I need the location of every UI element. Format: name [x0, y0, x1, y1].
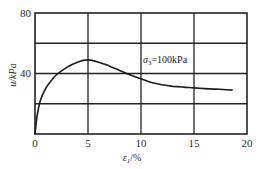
xtick-15: 15 [189, 137, 201, 149]
stress-annotation: σ3=100kPa [143, 54, 188, 67]
ytick-40: 40 [20, 67, 32, 79]
xtick-5: 5 [85, 137, 91, 149]
x-axis-label: ε1/% [123, 152, 142, 165]
pore-pressure-strain-chart: 80 40 0 5 10 15 20 u/kPa ε1/% σ3=100kPa [0, 0, 263, 169]
data-curve [35, 60, 232, 134]
grid-lines [35, 13, 247, 134]
ytick-80: 80 [20, 7, 32, 19]
xtick-20: 20 [242, 137, 254, 149]
y-axis-label: u/kPa [7, 63, 18, 86]
xtick-10: 10 [136, 137, 148, 149]
xtick-0: 0 [32, 137, 38, 149]
